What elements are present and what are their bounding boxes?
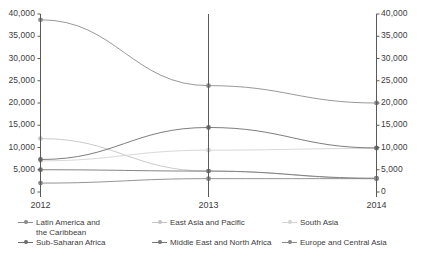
legend-item[interactable]: Sub-Saharan Africa — [18, 238, 105, 248]
y-axis-right-tick-label: 15,000 — [381, 120, 423, 129]
legend-marker-icon — [282, 218, 297, 228]
y-axis-left-tick-label: 30,000 — [0, 54, 35, 63]
y-axis-right-tick-label: 5,000 — [381, 165, 423, 174]
line-chart: 40,00035,00030,00025,00020,00015,00010,0… — [0, 0, 424, 257]
y-axis-left-tick-label: 10,000 — [0, 143, 35, 152]
legend-label: Latin America and the Caribbean — [36, 218, 100, 237]
legend-label: East Asia and Pacific — [170, 218, 245, 228]
legend-item[interactable]: Europe and Central Asia — [282, 238, 387, 248]
legend-marker-icon — [152, 218, 167, 228]
legend-label: Middle East and North Africa — [170, 238, 271, 248]
y-axis-right-tick-label: 40,000 — [381, 9, 423, 18]
x-axis-tick-label: 2012 — [16, 200, 66, 210]
chart-legend: Latin America and the CaribbeanEast Asia… — [0, 216, 424, 257]
legend-item[interactable]: South Asia — [282, 218, 338, 228]
y-axis-right-tick-label: 10,000 — [381, 143, 423, 152]
legend-item[interactable]: East Asia and Pacific — [152, 218, 245, 228]
y-axis-right-tick-label: 20,000 — [381, 98, 423, 107]
legend-marker-icon — [152, 238, 167, 248]
y-axis-left-tick-label: 35,000 — [0, 31, 35, 40]
y-axis-left-tick-label: 15,000 — [0, 120, 35, 129]
x-axis-tick-label: 2014 — [352, 200, 402, 210]
legend-marker-icon — [282, 238, 297, 248]
y-axis-left-tick-label: 40,000 — [0, 9, 35, 18]
y-axis-right-tick-label: 25,000 — [381, 76, 423, 85]
y-axis-left-tick-label: 20,000 — [0, 98, 35, 107]
legend-label: South Asia — [300, 218, 338, 228]
x-axis-tick-label: 2013 — [184, 200, 234, 210]
legend-item[interactable]: Middle East and North Africa — [152, 238, 271, 248]
legend-marker-icon — [18, 218, 33, 228]
y-axis-left-tick-label: 0 — [0, 187, 35, 196]
y-axis-right-tick-label: 35,000 — [381, 31, 423, 40]
legend-marker-icon — [18, 238, 33, 248]
y-axis-right-tick-label: 30,000 — [381, 54, 423, 63]
y-axis-right-tick-label: 0 — [381, 187, 423, 196]
legend-label: Europe and Central Asia — [300, 238, 387, 248]
y-axis-left-tick-label: 5,000 — [0, 165, 35, 174]
legend-label: Sub-Saharan Africa — [36, 238, 105, 248]
legend-item[interactable]: Latin America and the Caribbean — [18, 218, 100, 237]
y-axis-left-tick-label: 25,000 — [0, 76, 35, 85]
